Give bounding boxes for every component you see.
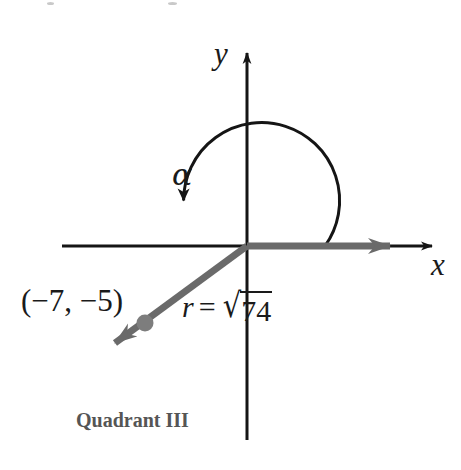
point-coordinates-label: (−7, −5) [21,285,123,316]
radius-equals-sign: = [199,292,221,322]
figure-canvas [0,0,461,470]
radicand-value: 74 [240,291,272,327]
radius-label: r = √ 74 [182,291,272,327]
point-marker [137,315,154,332]
trig-angle-figure: y x α (−7, −5) r = √ 74 Quadrant III [0,0,461,470]
scan-artifact [47,2,54,5]
y-axis-label: y [214,38,228,69]
angle-arc-alpha [184,123,340,246]
quadrant-label: Quadrant III [76,410,189,430]
angle-label-alpha: α [172,160,192,190]
radius-variable: r [182,292,199,322]
x-axis-label: x [431,249,445,280]
square-root-expression: √ 74 [221,291,273,327]
scan-artifact [168,2,177,5]
radical-sign-icon: √ [222,291,240,327]
